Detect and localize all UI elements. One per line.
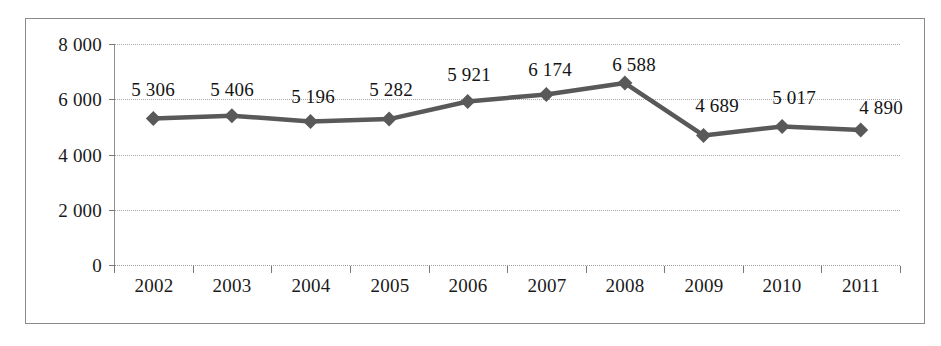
data-label-2007: 6 174 (505, 60, 595, 79)
data-point-2002 (146, 111, 161, 126)
data-label-2008: 6 588 (589, 55, 679, 74)
data-point-2007 (539, 87, 554, 102)
data-label-2002: 5 306 (108, 80, 198, 99)
data-label-2003: 5 406 (187, 80, 277, 99)
data-label-2011: 4 890 (836, 98, 926, 117)
plot-area: 8 000 6 000 4 000 2 000 0 2002 2003 2004… (0, 0, 941, 346)
data-label-2005: 5 282 (346, 80, 436, 99)
series-line (0, 0, 941, 346)
data-label-2010: 5 017 (749, 88, 839, 107)
data-label-2006: 5 921 (424, 65, 514, 84)
data-point-2006 (460, 94, 475, 109)
line-chart-figure: 8 000 6 000 4 000 2 000 0 2002 2003 2004… (0, 0, 941, 346)
data-point-2010 (775, 119, 790, 134)
data-point-2004 (303, 114, 318, 129)
data-point-2003 (224, 108, 239, 123)
data-label-2004: 5 196 (268, 87, 358, 106)
data-point-2005 (382, 112, 397, 127)
data-point-2011 (853, 122, 868, 137)
